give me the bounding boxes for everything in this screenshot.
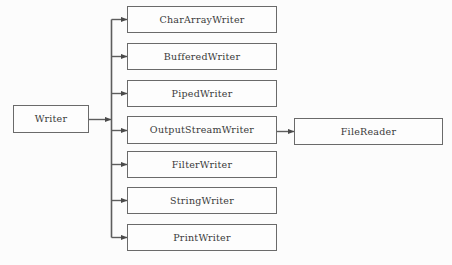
- node-printwriter-label: PrintWriter: [173, 232, 231, 242]
- node-stringwriter-label: StringWriter: [170, 195, 234, 205]
- node-pipedwriter-label: PipedWriter: [172, 88, 233, 98]
- node-writer[interactable]: Writer: [13, 105, 89, 133]
- node-pipedwriter[interactable]: PipedWriter: [127, 80, 277, 107]
- node-writer-label: Writer: [35, 114, 67, 124]
- node-outputstreamwriter-label: OutputStreamWriter: [150, 125, 254, 135]
- node-filereader-label: FileReader: [341, 126, 396, 136]
- node-chararraywriter-label: CharArrayWriter: [159, 14, 244, 24]
- node-stringwriter[interactable]: StringWriter: [127, 187, 277, 214]
- node-filterwriter[interactable]: FilterWriter: [127, 151, 277, 178]
- node-filereader[interactable]: FileReader: [294, 118, 443, 145]
- node-bufferedwriter[interactable]: BufferedWriter: [127, 43, 277, 70]
- node-outputstreamwriter[interactable]: OutputStreamWriter: [127, 116, 277, 144]
- node-chararraywriter[interactable]: CharArrayWriter: [127, 6, 277, 33]
- node-printwriter[interactable]: PrintWriter: [127, 224, 277, 251]
- node-bufferedwriter-label: BufferedWriter: [164, 51, 240, 61]
- class-hierarchy-diagram: Writer CharArrayWriter BufferedWriter Pi…: [0, 0, 452, 265]
- node-filterwriter-label: FilterWriter: [172, 159, 233, 169]
